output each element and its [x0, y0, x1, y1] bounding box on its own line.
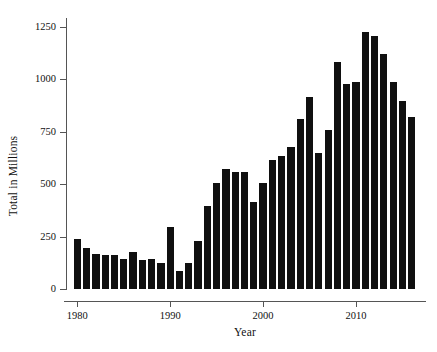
bar [102, 255, 109, 289]
x-tick-label: 2000 [240, 310, 286, 322]
y-tick-label: 0 [16, 284, 56, 295]
y-tick-label: 250 [16, 232, 56, 243]
bar [204, 206, 211, 289]
bar [92, 254, 99, 289]
bar-chart: Total in Millions Year 02505007501000125… [0, 0, 437, 352]
bar [334, 62, 341, 289]
x-tick-mark [77, 302, 78, 307]
bar [250, 202, 257, 289]
bar [241, 172, 248, 289]
bar [194, 241, 201, 289]
bar [287, 147, 294, 289]
bar [399, 101, 406, 289]
bar [269, 160, 276, 289]
y-tick-mark [60, 132, 66, 133]
bar [74, 239, 81, 289]
bar [380, 54, 387, 289]
bar [213, 183, 220, 289]
bar [111, 255, 118, 289]
x-axis-line [64, 301, 426, 302]
bar [83, 248, 90, 289]
x-tick-label: 2010 [333, 310, 379, 322]
bar [343, 84, 350, 289]
x-tick-mark [263, 302, 264, 307]
bar [362, 32, 369, 289]
y-tick-label: 750 [16, 127, 56, 138]
bar [157, 263, 164, 289]
bar [139, 260, 146, 289]
bar [325, 130, 332, 289]
bar [352, 82, 359, 289]
bar [232, 172, 239, 289]
y-tick-mark [60, 237, 66, 238]
x-tick-mark [356, 302, 357, 307]
y-tick-label: 1250 [16, 22, 56, 33]
bar [185, 263, 192, 289]
bar [371, 36, 378, 289]
bar [278, 156, 285, 289]
bar [129, 252, 136, 289]
bar [306, 97, 313, 289]
bar [408, 117, 415, 289]
bar [222, 169, 229, 289]
bar [315, 153, 322, 289]
y-tick-label: 1000 [16, 74, 56, 85]
x-tick-mark [170, 302, 171, 307]
y-tick-mark [60, 79, 66, 80]
y-tick-mark [60, 27, 66, 28]
bar [390, 82, 397, 289]
x-axis-title: Year [60, 326, 430, 338]
bar [148, 259, 155, 289]
y-tick-mark [60, 184, 66, 185]
y-tick-mark [60, 289, 66, 290]
y-tick-label: 500 [16, 179, 56, 190]
x-tick-label: 1990 [147, 310, 193, 322]
bar [259, 183, 266, 289]
y-axis-title: Total in Millions [0, 0, 26, 352]
x-tick-label: 1980 [54, 310, 100, 322]
plot-area [67, 16, 420, 289]
bar [167, 227, 174, 289]
bar [120, 259, 127, 289]
bar [176, 271, 183, 289]
bar [297, 119, 304, 289]
